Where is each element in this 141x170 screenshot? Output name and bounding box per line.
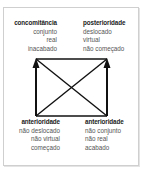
node-item: não deslocado — [14, 127, 60, 136]
right-arrow-shaft — [106, 64, 108, 116]
node-title: anterioridade — [14, 118, 60, 127]
node-bottom-right: anterioridade não conjunto não real acab… — [85, 118, 135, 152]
node-item: não conjunto — [85, 127, 135, 136]
node-item: não real — [85, 135, 135, 144]
node-bottom-left: anterioridade não deslocado não virtual … — [14, 118, 60, 152]
left-arrow-shaft — [35, 64, 37, 116]
node-title: anterioridade — [85, 118, 135, 127]
node-item: acabado — [85, 144, 135, 153]
node-item: não virtual — [14, 135, 60, 144]
node-item: começado — [14, 144, 60, 153]
